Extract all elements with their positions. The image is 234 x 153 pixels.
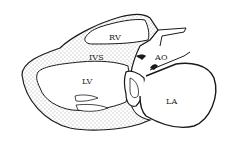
label-ao: AO xyxy=(155,53,168,62)
label-lv: LV xyxy=(82,77,93,86)
heart-diagram: RV IVS AO LV LA xyxy=(0,0,234,153)
left-atrium xyxy=(140,63,216,127)
label-rv: RV xyxy=(109,33,121,42)
label-la: LA xyxy=(166,97,178,106)
label-ivs: IVS xyxy=(89,53,104,62)
heart-drawing xyxy=(0,0,234,153)
